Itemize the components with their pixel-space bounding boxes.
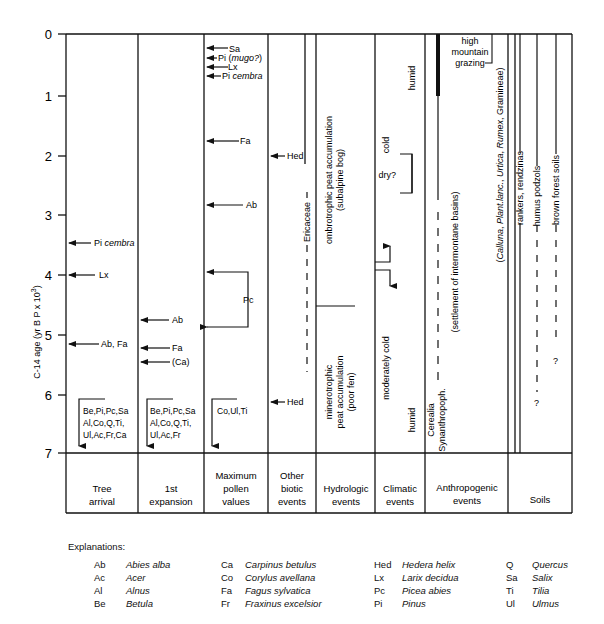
- hydro-ombro-line2: (subalpine bog): [335, 149, 345, 211]
- hdr-exp-1: 1st: [165, 483, 178, 494]
- anthro-graze-line1: high: [461, 36, 478, 46]
- anthro-graze-line2: mountain: [451, 47, 488, 57]
- tree-box-line1: Be,Pi,Pc,Sa: [83, 406, 129, 416]
- clim-humid-1: humid: [407, 66, 417, 91]
- anthro-synanthropoph: Synanthropoph.: [437, 388, 447, 452]
- exp-box-line3: Ul,Ac,Fr: [150, 430, 181, 440]
- other-biotic-column: [271, 156, 307, 402]
- exp-fa: Fa: [172, 343, 183, 353]
- legend-column-3: HedHedera helix LxLarix decidua PcPicea …: [374, 558, 459, 610]
- anthropogenic-column: [438, 34, 492, 380]
- tree-box-line3: Ul,Ac,Fr,Ca: [83, 430, 127, 440]
- other-hed-1: Hed: [287, 151, 304, 161]
- hdr-other-2: biotic: [281, 483, 303, 494]
- hydro-mino-line1: minerotrophic: [324, 364, 334, 419]
- y-tick-4: 4: [45, 268, 52, 283]
- hdr-max-3: values: [222, 496, 250, 507]
- y-tick-7: 7: [45, 446, 52, 461]
- y-tick-0: 0: [45, 27, 52, 42]
- max-pc: Pc: [243, 295, 254, 305]
- hdr-hydro-1: Hydrologic: [324, 483, 369, 494]
- legend-column-2: CaCarpinus betulus CoCorylus avellana Fa…: [221, 558, 322, 610]
- clim-cold: cold: [381, 137, 391, 154]
- header-row: Tree arrival 1st expansion Maximum polle…: [89, 470, 550, 507]
- other-hed-2: Hed: [287, 397, 304, 407]
- soils-q-brown: ?: [553, 356, 558, 366]
- exp-ca: (Ca): [172, 357, 190, 367]
- hdr-anthro-2: events: [453, 495, 481, 506]
- tree-box-line2: Al,Co,Q,Ti,: [83, 418, 124, 428]
- max-fa: Fa: [240, 136, 251, 146]
- soils-brown: brown forest soils: [551, 154, 561, 225]
- exp-box-line1: Be,Pi,Pc,Sa: [150, 406, 196, 416]
- max-pi-mugo: Pi (mugo?): [218, 53, 262, 63]
- tree-pi-cembra: Pi cembra: [94, 238, 135, 248]
- max-pollen-column: [207, 48, 248, 446]
- tree-lx: Lx: [99, 270, 109, 280]
- y-tick-6: 6: [45, 388, 52, 403]
- hdr-hydro-2: events: [332, 496, 360, 507]
- soils-rankers: rankers, rendzinas: [515, 150, 525, 225]
- other-ericaceae: Ericaceae: [302, 202, 312, 242]
- legend-column-4: QQuercus SaSalix TiTilia UlUlmus: [506, 558, 568, 610]
- anthro-cerealia: Cerealia: [426, 403, 436, 437]
- hdr-soils: Soils: [530, 494, 551, 505]
- tree-ab-fa: Ab, Fa: [101, 339, 128, 349]
- hdr-other-3: events: [278, 496, 306, 507]
- clim-dry: dry?: [378, 170, 396, 180]
- exp-ab: Ab: [172, 315, 183, 325]
- hdr-tree-1: Tree: [92, 483, 111, 494]
- max-ab: Ab: [246, 200, 257, 210]
- hydro-ombro-line1: ombrotrophic peat accumulation: [324, 116, 334, 244]
- y-tick-5: 5: [45, 328, 52, 343]
- y-tick-3: 3: [45, 208, 52, 223]
- hdr-other-1: Other: [280, 470, 304, 481]
- y-tick-1: 1: [45, 89, 52, 104]
- hydro-mino-line3: (poor fen): [346, 372, 356, 411]
- exp-box-line2: Al,Co,Q,Ti,: [150, 418, 191, 428]
- anthro-indicators: (Calluna, Plant.lanc., Urtica, Rumex, Gr…: [495, 67, 505, 262]
- hdr-max-2: pollen: [223, 483, 248, 494]
- clim-moderately-cold: moderately cold: [381, 336, 391, 400]
- chronology-diagram: 0 1 2 3 4 5 6 7 C-14 age (yr B P x 103) …: [0, 0, 604, 624]
- hydro-mino-line2: peat accumulation: [335, 355, 345, 428]
- hdr-anthro-1: Anthropogenic: [436, 482, 498, 493]
- y-axis: 0 1 2 3 4 5 6 7 C-14 age (yr B P x 103): [30, 27, 52, 461]
- hdr-exp-2: expansion: [149, 496, 192, 507]
- max-pi-cembra: Pi cembra: [222, 71, 263, 81]
- hdr-max-1: Maximum: [215, 470, 256, 481]
- legend-title: Explanations:: [68, 541, 125, 552]
- hdr-tree-2: arrival: [89, 496, 115, 507]
- y-axis-title: C-14 age (yr B P x 103): [30, 285, 42, 378]
- anthro-graze-line3: grazing: [455, 58, 485, 68]
- soils-q-podzol: ?: [534, 398, 539, 408]
- soils-podzols: humus podzols: [532, 165, 542, 226]
- hdr-clim-2: events: [386, 496, 414, 507]
- clim-humid-2: humid: [407, 408, 417, 433]
- legend-column-1: AbAbies alba AcAcer AlAlnus BeBetula: [94, 558, 170, 610]
- hdr-clim-1: Climatic: [383, 483, 417, 494]
- soils-column: [520, 34, 556, 453]
- anthro-settlement: (settlement of intermontane basins): [450, 191, 460, 332]
- max-box-line1: Co,Ul,Ti: [217, 406, 247, 416]
- y-tick-2: 2: [45, 149, 52, 164]
